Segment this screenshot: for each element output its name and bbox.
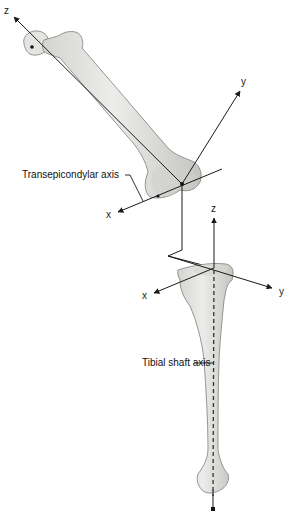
- femur-y-axis-line: [182, 91, 240, 184]
- transepicondylar-callout-leader: [125, 175, 143, 201]
- epicondyle-dot: [156, 194, 159, 197]
- femur-tibia-axes-diagram: z y x Transepicondylar axis z y x Tibial…: [0, 0, 292, 517]
- tibia: [178, 263, 234, 493]
- femur-z-axis-label: z: [4, 5, 9, 16]
- femur-y-axis-label: y: [241, 76, 246, 87]
- tibia-x-axis-label: x: [142, 290, 147, 301]
- tibia-body: [178, 263, 234, 493]
- transepicondylar-axis-label: Transepicondylar axis: [22, 169, 119, 180]
- femur-tibia-connector: [168, 184, 214, 268]
- tibia-z-axis-label: z: [211, 203, 216, 214]
- femur-x-axis-label: x: [106, 209, 111, 220]
- tibia-y-axis-label: y: [279, 286, 284, 297]
- femoral-head-center-dot: [30, 45, 34, 49]
- ankle-center-dot: [211, 507, 215, 511]
- femur-z-axis-line: [14, 17, 182, 184]
